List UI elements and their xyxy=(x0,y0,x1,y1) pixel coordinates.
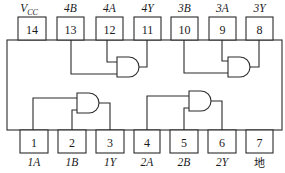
and-gate-2 xyxy=(147,91,222,130)
top-pin-11: 11 4Y xyxy=(134,2,161,40)
bottom-pin-6: 6 2Y xyxy=(208,130,236,168)
ic-pinout-diagram: 14 VCC 13 4B 12 4A 11 4Y 10 3B 9 3A 8 3Y… xyxy=(0,0,285,173)
svg-text:3B: 3B xyxy=(177,2,191,14)
svg-text:3Y: 3Y xyxy=(252,2,267,14)
and-gate-3 xyxy=(184,40,259,77)
svg-text:2B: 2B xyxy=(178,156,191,168)
svg-text:1B: 1B xyxy=(66,156,79,168)
bottom-pin-1: 1 1A xyxy=(20,130,48,168)
svg-text:1Y: 1Y xyxy=(104,156,118,168)
svg-text:11: 11 xyxy=(142,23,154,37)
top-pin-13: 13 4B xyxy=(57,2,84,40)
svg-text:4A: 4A xyxy=(103,2,117,14)
svg-text:3A: 3A xyxy=(215,2,230,14)
svg-text:6: 6 xyxy=(219,136,225,150)
svg-text:8: 8 xyxy=(257,23,263,37)
ic-body xyxy=(7,40,282,130)
top-pin-9: 9 3A xyxy=(209,2,236,40)
svg-text:1: 1 xyxy=(31,136,37,150)
svg-text:2Y: 2Y xyxy=(216,156,230,168)
svg-text:4B: 4B xyxy=(64,2,77,14)
svg-text:地: 地 xyxy=(254,157,265,170)
svg-text:12: 12 xyxy=(104,23,116,37)
top-pin-12: 12 4A xyxy=(96,2,123,40)
svg-text:2: 2 xyxy=(69,136,75,150)
svg-text:2A: 2A xyxy=(141,156,155,168)
svg-text:7: 7 xyxy=(257,136,263,150)
top-pin-8: 8 3Y xyxy=(246,2,273,40)
pin-label-vcc: VCC xyxy=(20,2,38,17)
svg-text:4Y: 4Y xyxy=(141,2,155,14)
svg-text:4: 4 xyxy=(144,136,150,150)
bottom-pin-2: 2 1B xyxy=(58,130,86,168)
svg-text:5: 5 xyxy=(181,136,187,150)
bottom-pin-7: 7 地 xyxy=(246,130,273,170)
top-pin-10: 10 3B xyxy=(171,2,198,40)
bottom-pin-3: 3 1Y xyxy=(96,130,124,168)
and-gate-1 xyxy=(33,93,110,130)
svg-text:14: 14 xyxy=(26,23,38,37)
svg-text:10: 10 xyxy=(179,23,191,37)
and-gate-4 xyxy=(71,40,147,77)
top-pin-14: 14 VCC xyxy=(18,2,46,40)
svg-text:9: 9 xyxy=(220,23,226,37)
bottom-pin-5: 5 2B xyxy=(170,130,198,168)
svg-text:13: 13 xyxy=(65,23,77,37)
svg-text:1A: 1A xyxy=(28,156,42,168)
bottom-pin-4: 4 2A xyxy=(134,130,160,168)
svg-text:3: 3 xyxy=(107,136,113,150)
